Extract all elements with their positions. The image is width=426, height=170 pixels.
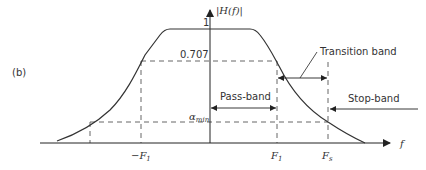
fs-tick-label: Fs	[321, 150, 333, 163]
f1-tick-label: F1	[270, 150, 282, 163]
x-axis-label: f	[399, 138, 406, 149]
half-power-label: 0.707	[180, 49, 209, 60]
transition-band-label: Transition band	[319, 46, 397, 57]
y-axis-label: |H(f)|	[216, 5, 243, 17]
pass-band-label: Pass-band	[220, 91, 271, 102]
magnitude-response-curve	[57, 29, 365, 143]
dashed-guides	[90, 61, 328, 143]
level-one-label: 1	[203, 17, 209, 28]
stop-band-label: Stop-band	[348, 93, 400, 104]
panel-label: (b)	[12, 67, 26, 78]
lowpass-filter-response-diagram: (b) |H(f)| f 1 0.707 αmin −F1 F1 Fs Pass…	[0, 0, 426, 170]
transition-band-leader	[300, 52, 317, 78]
neg-f1-tick-label: −F1	[131, 150, 151, 163]
